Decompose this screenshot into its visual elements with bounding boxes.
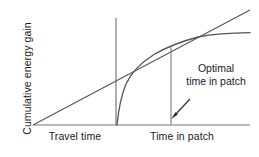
x-axis-label-time-in-patch: Time in patch: [140, 130, 224, 142]
annotation-line-2: time in patch: [176, 75, 256, 88]
annotation-line-1: Optimal: [176, 62, 256, 75]
mvt-figure: Cumulative energy gain Travel time Time …: [0, 0, 259, 157]
annotation-arrow: [171, 99, 190, 119]
x-axis-label-travel-time: Travel time: [33, 130, 117, 142]
optimal-time-annotation: Optimal time in patch: [176, 62, 256, 87]
